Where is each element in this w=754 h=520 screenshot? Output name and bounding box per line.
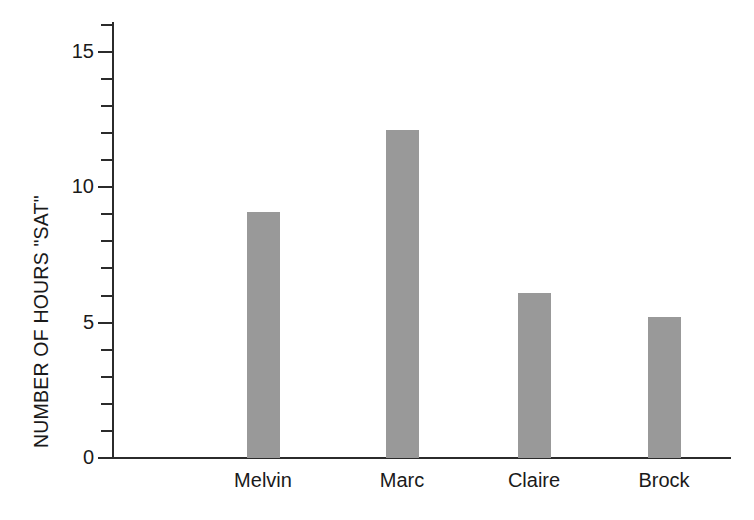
y-axis-minor-tick	[101, 349, 113, 351]
y-axis-tick-label: 10	[32, 176, 94, 196]
bar	[386, 130, 419, 458]
y-axis-title: NUMBER OF HOURS "SAT"	[22, 18, 60, 448]
y-axis-minor-tick	[101, 240, 113, 242]
y-axis-minor-tick	[101, 430, 113, 432]
y-axis-minor-tick	[101, 295, 113, 297]
y-axis-major-tick	[98, 186, 113, 188]
y-axis-tick-label: 5	[32, 312, 94, 332]
y-axis-minor-tick	[101, 132, 113, 134]
y-axis-minor-tick	[101, 78, 113, 80]
y-axis-minor-tick	[101, 376, 113, 378]
bar-chart: NUMBER OF HOURS "SAT" 051015 Brock (9)Me…	[0, 0, 754, 520]
y-axis-major-tick	[98, 457, 113, 459]
y-axis-minor-tick	[101, 267, 113, 269]
x-axis-tick-label: Marc	[342, 468, 462, 492]
y-axis-tick-label: 0	[32, 447, 94, 467]
x-axis-tick-label: Brock	[604, 468, 724, 492]
y-axis-major-tick	[98, 322, 113, 324]
bar	[518, 293, 551, 458]
plot-area: Brock (9)Melvin (3) Claire (9)Melvin (6)…	[114, 22, 731, 458]
y-axis-minor-tick	[101, 159, 113, 161]
x-axis-tick-label: Melvin	[203, 468, 323, 492]
y-axis-minor-tick	[101, 24, 113, 26]
x-axis-tick-label: Claire	[474, 468, 594, 492]
y-axis-minor-tick	[101, 213, 113, 215]
y-axis-tick-label: 15	[32, 41, 94, 61]
y-axis-major-tick	[98, 51, 113, 53]
y-axis-minor-tick	[101, 403, 113, 405]
bar	[247, 212, 280, 458]
bar	[648, 317, 681, 458]
y-axis-minor-tick	[101, 105, 113, 107]
